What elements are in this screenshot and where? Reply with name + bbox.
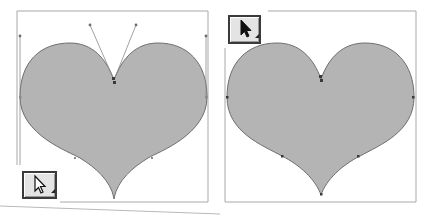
anchor-point[interactable] — [357, 155, 360, 158]
anchor-point[interactable] — [113, 81, 116, 84]
anchor-point[interactable] — [226, 96, 229, 99]
heart-shape-right[interactable] — [227, 43, 414, 195]
anchor-point[interactable] — [319, 75, 322, 78]
hollow-arrow-icon — [24, 173, 55, 197]
illustration-stage — [0, 0, 427, 216]
anchor-point[interactable] — [281, 155, 284, 158]
anchor-point[interactable] — [19, 96, 22, 99]
anchor-point[interactable] — [320, 79, 323, 82]
anchor-point[interactable] — [74, 157, 76, 159]
handle-point[interactable] — [19, 35, 22, 38]
handle-point[interactable] — [205, 35, 208, 38]
corner-triangle-icon — [255, 34, 259, 38]
anchor-point[interactable] — [205, 96, 208, 99]
anchor-point[interactable] — [151, 157, 153, 159]
anchor-point[interactable] — [320, 193, 323, 196]
handle-point[interactable] — [89, 24, 92, 27]
selection-tool-button[interactable] — [228, 15, 261, 44]
solid-arrow-icon — [230, 17, 259, 42]
direct-selection-tool-button[interactable] — [22, 171, 57, 199]
canvas — [0, 0, 427, 216]
anchor-point[interactable] — [412, 96, 415, 99]
corner-triangle-icon — [51, 189, 55, 193]
anchor-point[interactable] — [113, 197, 115, 199]
handle-point[interactable] — [135, 24, 138, 27]
page-curl-line — [0, 206, 220, 214]
anchor-point[interactable] — [112, 77, 115, 80]
